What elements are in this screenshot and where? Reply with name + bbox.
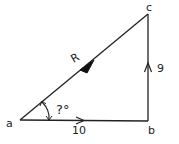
vector-r-arrowhead-icon <box>80 60 94 73</box>
vertex-a-label: a <box>6 117 13 130</box>
vector-bc-label: 9 <box>157 62 164 75</box>
vertex-b-label: b <box>148 124 155 137</box>
vector-ab-label: 10 <box>72 124 86 137</box>
vector-r-label: R <box>68 50 81 65</box>
vector-triangle-diagram: a b c 10 9 R ?° <box>0 0 179 144</box>
angle-arc <box>42 102 49 120</box>
angle-label: ?° <box>56 102 69 117</box>
vertex-c-label: c <box>146 1 152 14</box>
